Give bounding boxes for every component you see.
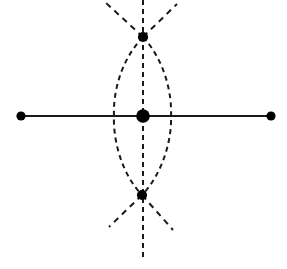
- figure-canvas: [0, 0, 287, 269]
- node-bottom-pole: [137, 190, 147, 200]
- diagram-svg: [0, 0, 287, 269]
- node-top-pole: [138, 32, 148, 42]
- node-left-endpoint: [16, 111, 25, 120]
- node-center: [136, 109, 150, 123]
- node-right-endpoint: [266, 111, 275, 120]
